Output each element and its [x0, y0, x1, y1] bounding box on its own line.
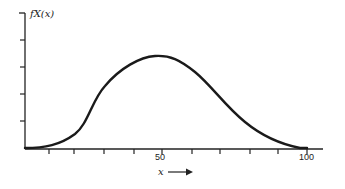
x-axis-label: x [158, 166, 164, 177]
x-tick-label-50: 50 [155, 152, 165, 162]
chart-canvas [0, 0, 345, 189]
x-tick-label-100: 100 [299, 152, 314, 162]
y-axis-label: fX(x) [30, 8, 54, 19]
density-curve [25, 56, 307, 148]
x-ticks [49, 149, 307, 154]
x-arrow-head-icon [186, 169, 193, 176]
y-ticks [20, 40, 25, 121]
